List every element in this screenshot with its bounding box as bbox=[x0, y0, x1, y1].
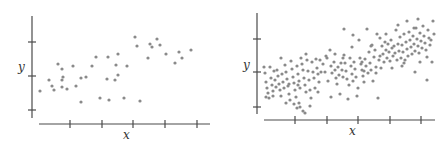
data-point bbox=[345, 77, 348, 80]
left-y-axis bbox=[28, 16, 36, 118]
data-point bbox=[361, 74, 364, 77]
data-point bbox=[418, 60, 421, 63]
data-point bbox=[315, 66, 318, 69]
data-point bbox=[388, 59, 391, 62]
data-point bbox=[177, 50, 180, 53]
data-point bbox=[279, 94, 282, 97]
data-point bbox=[284, 101, 287, 104]
data-point bbox=[419, 39, 422, 42]
data-point bbox=[275, 68, 278, 71]
data-point bbox=[271, 89, 274, 92]
data-point bbox=[422, 34, 425, 37]
data-point bbox=[316, 90, 319, 93]
data-point bbox=[173, 61, 176, 64]
data-point bbox=[146, 56, 149, 59]
data-point bbox=[283, 63, 286, 66]
data-point bbox=[390, 66, 393, 69]
data-point bbox=[284, 70, 287, 73]
data-point bbox=[381, 52, 384, 55]
data-point bbox=[317, 80, 320, 83]
right-x-axis bbox=[264, 116, 435, 124]
data-point bbox=[425, 78, 428, 81]
data-point bbox=[148, 42, 151, 45]
data-point bbox=[310, 60, 313, 63]
data-point bbox=[418, 31, 421, 34]
data-point bbox=[336, 65, 339, 68]
data-point bbox=[363, 57, 366, 60]
data-point bbox=[150, 45, 153, 48]
data-point bbox=[374, 65, 377, 68]
data-point bbox=[313, 86, 316, 89]
data-point bbox=[430, 60, 433, 63]
data-point bbox=[335, 82, 338, 85]
data-point bbox=[343, 61, 346, 64]
data-point bbox=[328, 48, 331, 51]
data-point bbox=[287, 92, 290, 95]
data-point bbox=[60, 78, 63, 81]
data-point bbox=[401, 50, 404, 53]
data-point bbox=[296, 72, 299, 75]
data-point bbox=[409, 45, 412, 48]
data-point bbox=[346, 97, 349, 100]
data-point bbox=[392, 44, 395, 47]
data-point bbox=[377, 58, 380, 61]
data-point bbox=[428, 43, 431, 46]
data-point bbox=[113, 78, 116, 81]
data-point bbox=[61, 75, 64, 78]
data-point bbox=[337, 73, 340, 76]
data-point bbox=[288, 98, 291, 101]
left-x-axis-label: x bbox=[123, 128, 130, 142]
data-point bbox=[424, 48, 427, 51]
data-point bbox=[432, 32, 435, 35]
data-point bbox=[65, 87, 68, 90]
data-point bbox=[276, 74, 279, 77]
data-point bbox=[155, 37, 158, 40]
data-point bbox=[98, 96, 101, 99]
data-point bbox=[301, 68, 304, 71]
data-point bbox=[316, 72, 319, 75]
data-point bbox=[268, 65, 271, 68]
data-point bbox=[400, 64, 403, 67]
data-point bbox=[296, 83, 299, 86]
data-point bbox=[352, 60, 355, 63]
data-point bbox=[423, 41, 426, 44]
data-point bbox=[295, 106, 298, 109]
data-point bbox=[417, 51, 420, 54]
data-point bbox=[387, 50, 390, 53]
data-point bbox=[333, 52, 336, 55]
data-point bbox=[60, 67, 63, 70]
data-point bbox=[384, 32, 387, 35]
data-point bbox=[281, 80, 284, 83]
data-point bbox=[303, 111, 306, 114]
data-point bbox=[429, 38, 432, 41]
data-point bbox=[71, 64, 74, 67]
data-point bbox=[308, 104, 311, 107]
data-point bbox=[407, 30, 410, 33]
data-point bbox=[290, 67, 293, 70]
data-point bbox=[323, 70, 326, 73]
data-point bbox=[326, 79, 329, 82]
data-point bbox=[356, 86, 359, 89]
data-point bbox=[391, 54, 394, 57]
data-point bbox=[329, 95, 332, 98]
data-point bbox=[116, 73, 119, 76]
data-point bbox=[385, 56, 388, 59]
data-point bbox=[353, 67, 356, 70]
data-point bbox=[107, 98, 110, 101]
data-point bbox=[400, 43, 403, 46]
data-point bbox=[94, 55, 97, 58]
data-point bbox=[379, 66, 382, 69]
data-point bbox=[270, 83, 273, 86]
data-point bbox=[351, 79, 354, 82]
data-point bbox=[348, 56, 351, 59]
data-point bbox=[318, 58, 321, 61]
data-point bbox=[332, 60, 335, 63]
data-point bbox=[384, 48, 387, 51]
data-point bbox=[376, 96, 379, 99]
data-point bbox=[362, 80, 365, 83]
data-point bbox=[319, 70, 322, 73]
data-point bbox=[397, 49, 400, 52]
data-point bbox=[262, 65, 265, 68]
data-point bbox=[308, 88, 311, 91]
data-point bbox=[329, 64, 332, 67]
